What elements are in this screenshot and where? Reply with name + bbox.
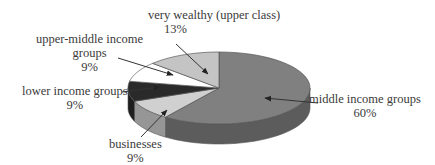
label-very-wealthy: very wealthy (upper class) 13% xyxy=(148,8,280,36)
label-text: very wealthy (upper class) xyxy=(148,8,280,22)
label-text: middle income groups xyxy=(309,92,421,106)
label-percent: 9% xyxy=(109,151,162,165)
label-text: upper-middle income xyxy=(36,32,143,46)
label-percent: 9% xyxy=(36,60,143,74)
label-percent: 60% xyxy=(309,106,421,120)
label-percent: 13% xyxy=(148,22,280,36)
label-businesses: businesses 9% xyxy=(109,137,162,165)
label-middle: middle income groups 60% xyxy=(309,92,421,120)
label-upper-middle: upper-middle income groups 9% xyxy=(36,32,143,74)
label-percent: 9% xyxy=(22,98,128,112)
label-text: businesses xyxy=(109,137,162,151)
label-text: lower income groups xyxy=(22,84,128,98)
label-lower: lower income groups 9% xyxy=(22,84,128,112)
label-text-line2: groups xyxy=(36,46,143,60)
